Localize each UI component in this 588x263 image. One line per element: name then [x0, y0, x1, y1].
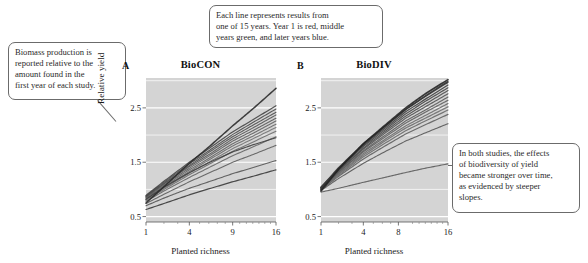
- plot-area-biocon: 149160.51.52.5: [118, 76, 283, 234]
- panel-title-biocon: BioCON: [118, 59, 283, 70]
- y-tick-label: 0.5: [297, 212, 316, 222]
- callout-line: slopes.: [459, 192, 573, 203]
- x-tick-label: 16: [272, 227, 281, 237]
- panel-title-biodiv: BioDIV: [293, 59, 455, 70]
- x-tick-label: 1: [144, 227, 148, 237]
- panel-biodiv: B BioDIV 148160.51.52.5 Planted richness: [293, 58, 455, 263]
- callout-year-colors: Each line represents results from one of…: [209, 5, 383, 48]
- callout-line: Each line represents results from: [216, 10, 376, 21]
- x-tick-label: 4: [187, 227, 191, 237]
- callout-line: years green, and later years blue.: [216, 32, 376, 43]
- y-tick-label: 0.5: [122, 212, 141, 222]
- x-axis-title-biocon: Planted richness: [118, 246, 283, 256]
- y-tick-label: 2.5: [297, 103, 316, 113]
- x-axis-title-biodiv: Planted richness: [293, 246, 455, 256]
- x-tick-label: 1: [319, 227, 323, 237]
- callout-steeper-slopes: In both studies, the effects of biodiver…: [452, 143, 580, 213]
- panel-biocon: A BioCON 149160.51.52.5 Planted richness: [118, 58, 283, 263]
- callout-line: In both studies, the effects: [459, 148, 573, 159]
- callout-line: one of 15 years. Year 1 is red, middle: [216, 21, 376, 32]
- x-tick-label: 4: [361, 227, 365, 237]
- figure-root: Biomass production is reported relative …: [0, 0, 588, 263]
- y-tick-label: 1.5: [122, 157, 141, 167]
- callout-line: as evidenced by steeper: [459, 181, 573, 192]
- x-tick-label: 9: [231, 227, 235, 237]
- x-tick-label: 8: [396, 227, 400, 237]
- y-tick-label: 2.5: [122, 103, 141, 113]
- callout-biomass-production: Biomass production is reported relative …: [8, 42, 126, 100]
- callout-line: of biodiversity of yield: [459, 159, 573, 170]
- y-tick-label: 1.5: [297, 157, 316, 167]
- plot-svg-biocon: [118, 76, 283, 234]
- y-axis-title: Relative yield: [96, 53, 106, 104]
- callout-line: became stronger over time,: [459, 170, 573, 181]
- plot-svg-biodiv: [293, 76, 455, 234]
- x-tick-label: 16: [444, 227, 453, 237]
- plot-area-biodiv: 148160.51.52.5: [293, 76, 455, 234]
- plot-background: [146, 78, 276, 222]
